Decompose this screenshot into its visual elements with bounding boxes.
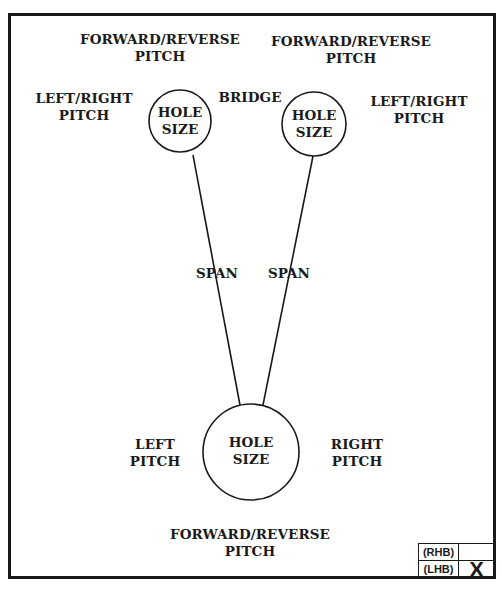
hole-size-label-bottom: HOLE SIZE	[221, 434, 281, 468]
label-line: SIZE	[284, 124, 344, 141]
label-line: PITCH	[321, 453, 393, 470]
right-pitch-label: RIGHT PITCH	[321, 436, 393, 470]
left-pitch-label: LEFT PITCH	[120, 436, 190, 470]
top-right-forward-reverse-pitch-label: FORWARD/REVERSE PITCH	[261, 33, 441, 67]
label-line: LEFT/RIGHT	[364, 93, 474, 110]
label-line: PITCH	[160, 543, 340, 560]
bridge-label: BRIDGE	[215, 89, 285, 106]
label-line: PITCH	[261, 50, 441, 67]
label-line: LEFT/RIGHT	[29, 90, 139, 107]
label-line: FORWARD/REVERSE	[70, 31, 250, 48]
lhb-label: (LHB)	[419, 561, 459, 577]
label-line: PITCH	[29, 107, 139, 124]
lhb-row: (LHB) X	[419, 561, 494, 577]
span-label-right: SPAN	[265, 265, 313, 282]
hand-selection-box: (RHB) (LHB) X	[418, 543, 494, 577]
label-line: HOLE	[150, 104, 210, 121]
top-left-forward-reverse-pitch-label: FORWARD/REVERSE PITCH	[70, 31, 250, 65]
label-line: PITCH	[364, 110, 474, 127]
label-line: PITCH	[70, 48, 250, 65]
left-right-pitch-label-left: LEFT/RIGHT PITCH	[29, 90, 139, 124]
hole-size-label-upper-right: HOLE SIZE	[284, 107, 344, 141]
pitch-diagram: FORWARD/REVERSE PITCH FORWARD/REVERSE PI…	[0, 0, 502, 590]
rhb-label: (RHB)	[419, 544, 459, 560]
label-line: RIGHT	[321, 436, 393, 453]
label-line: SIZE	[221, 451, 281, 468]
hole-size-label-upper-left: HOLE SIZE	[150, 104, 210, 138]
label-line: HOLE	[284, 107, 344, 124]
label-line: SPAN	[194, 265, 240, 282]
label-line: FORWARD/REVERSE	[261, 33, 441, 50]
span-label-left: SPAN	[193, 265, 241, 282]
label-line: SPAN	[266, 265, 312, 282]
label-line: HOLE	[221, 434, 281, 451]
label-line: BRIDGE	[215, 89, 285, 106]
label-line: PITCH	[120, 453, 190, 470]
label-line: LEFT	[120, 436, 190, 453]
bottom-forward-reverse-pitch-label: FORWARD/REVERSE PITCH	[160, 526, 340, 560]
lhb-checkbox[interactable]: X	[460, 561, 493, 577]
left-right-pitch-label-right: LEFT/RIGHT PITCH	[364, 93, 474, 127]
label-line: FORWARD/REVERSE	[160, 526, 340, 543]
label-line: SIZE	[150, 121, 210, 138]
